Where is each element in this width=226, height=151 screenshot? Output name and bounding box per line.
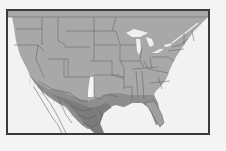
range-map — [8, 11, 208, 133]
map-frame — [6, 9, 210, 135]
